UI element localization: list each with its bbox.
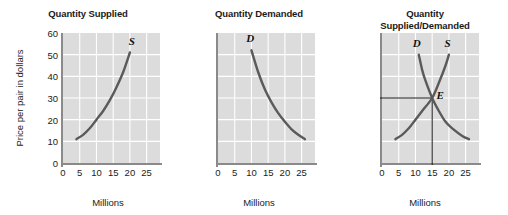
- x-tick-label: 20: [125, 167, 136, 178]
- x-tick-label: 15: [263, 167, 274, 178]
- y-axis-label: Price per pair in dollars: [14, 33, 28, 163]
- x-axis-label: Millions: [342, 197, 508, 208]
- x-axis-label: Millions: [176, 197, 342, 208]
- x-tick-label: 0: [379, 167, 384, 178]
- chart-canvas: [382, 33, 479, 163]
- x-tick-label: 5: [396, 167, 401, 178]
- panel-title-line: Quantity: [342, 8, 508, 20]
- curve-label-s: S: [129, 35, 135, 47]
- y-tick-label: 60: [47, 28, 58, 39]
- x-tick-label: 15: [108, 167, 119, 178]
- plot-area-quantity-demanded: 0510152025D: [218, 33, 315, 163]
- plot-area-quantity-supplied-demanded: 0510152025DSE: [382, 33, 479, 163]
- x-tick-label: 5: [77, 167, 82, 178]
- x-tick-label: 20: [444, 167, 455, 178]
- curve-s-supply: [76, 53, 130, 140]
- x-tick-label: 20: [280, 167, 291, 178]
- panel-title-quantity-demanded: Quantity Demanded: [176, 8, 342, 20]
- gridlines: [218, 33, 315, 163]
- x-axis-line: [61, 163, 162, 165]
- x-tick-label: 10: [246, 167, 257, 178]
- x-tick-label: 10: [91, 167, 102, 178]
- panel-title-line: Quantity Demanded: [176, 8, 342, 20]
- y-tick-label: 50: [47, 49, 58, 60]
- supply-demand-figure: Quantity SuppliedPrice per pair in dolla…: [0, 0, 508, 215]
- curve-label-s: S: [444, 37, 450, 49]
- chart-canvas: [63, 33, 160, 163]
- plot-area-quantity-supplied: 60504030201000510152025S: [63, 33, 160, 163]
- x-axis-label: Millions: [40, 197, 176, 208]
- y-tick-label: 10: [47, 136, 58, 147]
- panel-title-line: Supplied/Demanded: [342, 20, 508, 32]
- chart-panel-quantity-supplied-demanded: QuantitySupplied/Demanded0510152025DSEMi…: [342, 0, 508, 215]
- y-tick-label: 20: [47, 114, 58, 125]
- x-tick-label: 25: [460, 167, 471, 178]
- panel-title-line: Quantity Supplied: [0, 8, 176, 20]
- chart-panel-quantity-supplied: Quantity SuppliedPrice per pair in dolla…: [0, 0, 176, 215]
- x-tick-label: 0: [215, 167, 220, 178]
- curve-label-d: D: [413, 37, 421, 49]
- x-tick-label: 0: [60, 167, 65, 178]
- x-tick-label: 5: [232, 167, 237, 178]
- x-tick-label: 25: [141, 167, 152, 178]
- curve-label-e: E: [437, 89, 444, 101]
- panel-title-quantity-supplied: Quantity Supplied: [0, 8, 176, 20]
- chart-canvas: [218, 33, 315, 163]
- panel-title-quantity-supplied-demanded: QuantitySupplied/Demanded: [342, 8, 508, 31]
- curve-label-d: D: [246, 32, 254, 44]
- y-tick-label: 0: [53, 158, 58, 169]
- x-tick-label: 10: [410, 167, 421, 178]
- x-tick-label: 25: [296, 167, 307, 178]
- y-tick-label: 30: [47, 93, 58, 104]
- chart-panel-quantity-demanded: Quantity Demanded0510152025DMillions: [176, 0, 342, 215]
- y-tick-label: 40: [47, 71, 58, 82]
- curve-d-demand: [251, 50, 305, 139]
- x-axis-line: [216, 163, 317, 165]
- x-tick-label: 15: [427, 167, 438, 178]
- x-axis-line: [380, 163, 481, 165]
